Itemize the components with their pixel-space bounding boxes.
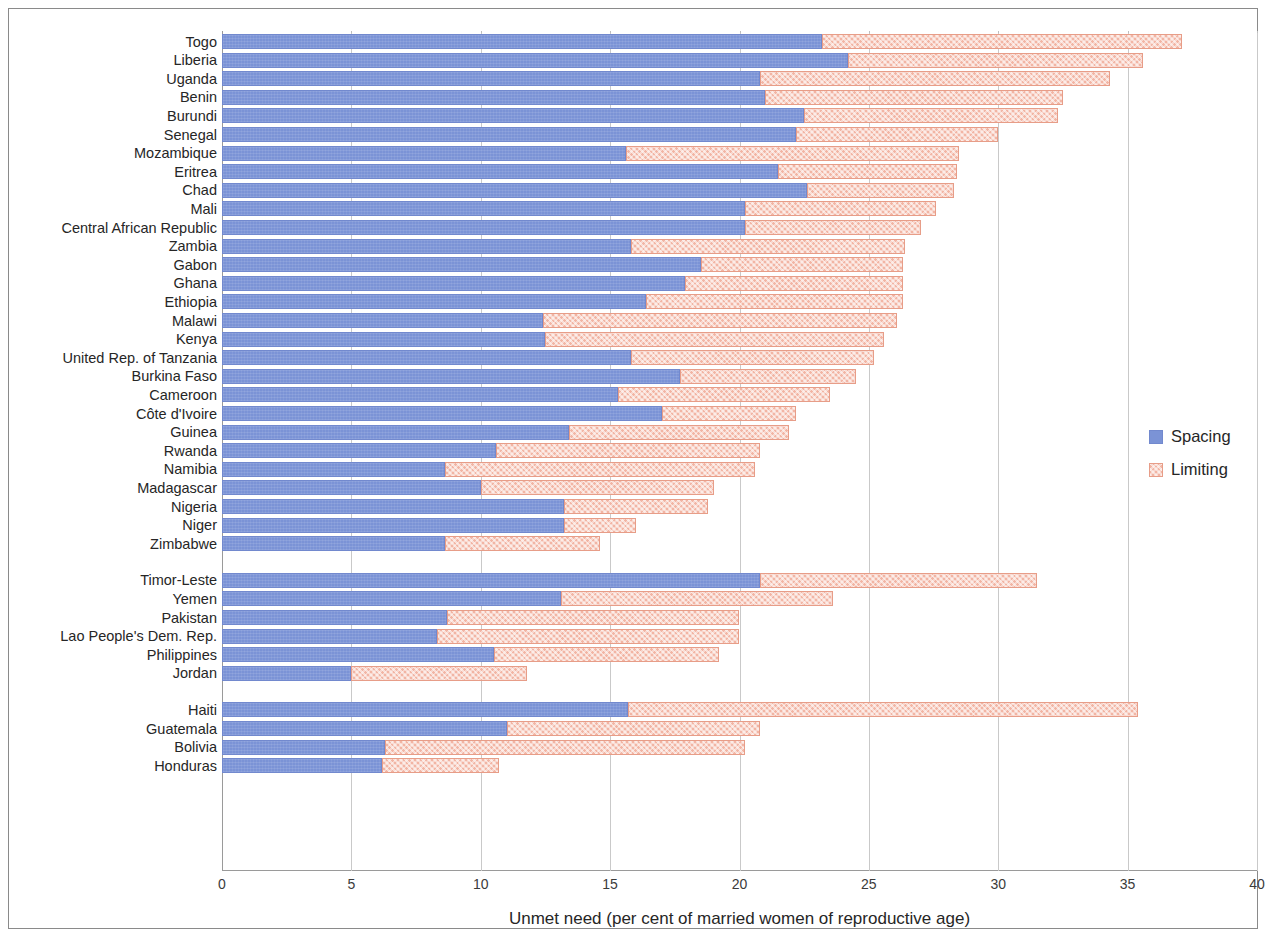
bar-segment-limiting[interactable]: [445, 462, 756, 477]
bar-row: [222, 220, 1257, 235]
category-label: Jordan: [12, 666, 217, 681]
bar-row: [222, 721, 1257, 736]
bar-segment-spacing[interactable]: [222, 257, 701, 272]
category-label: Timor-Leste: [12, 573, 217, 588]
bar-segment-limiting[interactable]: [631, 350, 874, 365]
bar-segment-spacing[interactable]: [222, 220, 745, 235]
legend-item-spacing[interactable]: Spacing: [1149, 427, 1259, 446]
bar-segment-spacing[interactable]: [222, 90, 765, 105]
category-label: Namibia: [12, 462, 217, 477]
bar-segment-spacing[interactable]: [222, 276, 685, 291]
bar-segment-spacing[interactable]: [222, 425, 569, 440]
bar-segment-spacing[interactable]: [222, 462, 445, 477]
x-tick-label: 10: [473, 876, 489, 892]
bar-segment-limiting[interactable]: [848, 53, 1143, 68]
bar-segment-spacing[interactable]: [222, 536, 445, 551]
bar-segment-limiting[interactable]: [662, 406, 797, 421]
bar-segment-limiting[interactable]: [631, 239, 905, 254]
bar-segment-limiting[interactable]: [778, 164, 957, 179]
bar-segment-limiting[interactable]: [496, 443, 760, 458]
bar-segment-spacing[interactable]: [222, 740, 385, 755]
bar-segment-spacing[interactable]: [222, 573, 760, 588]
bar-segment-spacing[interactable]: [222, 702, 628, 717]
bar-segment-spacing[interactable]: [222, 127, 796, 142]
bar-segment-spacing[interactable]: [222, 71, 760, 86]
bar-row: [222, 499, 1257, 514]
category-label: Bolivia: [12, 740, 217, 755]
category-label: Burundi: [12, 109, 217, 124]
bar-segment-spacing[interactable]: [222, 610, 447, 625]
bar-segment-spacing[interactable]: [222, 146, 626, 161]
bar-segment-spacing[interactable]: [222, 666, 351, 681]
bar-segment-limiting[interactable]: [564, 499, 709, 514]
bar-segment-limiting[interactable]: [618, 387, 830, 402]
bar-segment-spacing[interactable]: [222, 499, 564, 514]
bar-segment-limiting[interactable]: [626, 146, 960, 161]
bar-segment-spacing[interactable]: [222, 183, 807, 198]
bar-segment-spacing[interactable]: [222, 108, 804, 123]
bar-segment-limiting[interactable]: [745, 220, 921, 235]
bar-row: [222, 53, 1257, 68]
bar-segment-limiting[interactable]: [447, 610, 739, 625]
bar-segment-limiting[interactable]: [543, 313, 897, 328]
bar-row: [222, 573, 1257, 588]
bar-segment-limiting[interactable]: [564, 518, 636, 533]
bar-segment-spacing[interactable]: [222, 332, 545, 347]
bar-segment-spacing[interactable]: [222, 721, 507, 736]
bar-segment-limiting[interactable]: [445, 536, 600, 551]
category-label: Benin: [12, 90, 217, 105]
x-tick-label: 35: [1120, 876, 1136, 892]
bar-segment-limiting[interactable]: [760, 573, 1037, 588]
bar-segment-limiting[interactable]: [765, 90, 1063, 105]
bar-segment-spacing[interactable]: [222, 443, 496, 458]
bar-segment-limiting[interactable]: [760, 71, 1109, 86]
bar-segment-limiting[interactable]: [385, 740, 745, 755]
bar-segment-spacing[interactable]: [222, 294, 646, 309]
bar-row: [222, 518, 1257, 533]
bar-segment-limiting[interactable]: [545, 332, 884, 347]
bar-segment-limiting[interactable]: [680, 369, 856, 384]
bar-segment-spacing[interactable]: [222, 629, 437, 644]
bar-segment-limiting[interactable]: [561, 591, 833, 606]
bar-segment-spacing[interactable]: [222, 313, 543, 328]
bar-segment-limiting[interactable]: [646, 294, 902, 309]
bar-segment-limiting[interactable]: [569, 425, 789, 440]
bar-segment-spacing[interactable]: [222, 647, 494, 662]
bar-segment-spacing[interactable]: [222, 591, 561, 606]
bar-segment-spacing[interactable]: [222, 53, 848, 68]
bar-segment-limiting[interactable]: [481, 480, 714, 495]
bar-segment-spacing[interactable]: [222, 34, 822, 49]
bar-segment-limiting[interactable]: [685, 276, 902, 291]
bar-segment-limiting[interactable]: [796, 127, 998, 142]
bar-segment-spacing[interactable]: [222, 387, 618, 402]
bar-row: [222, 591, 1257, 606]
bar-segment-limiting[interactable]: [745, 201, 936, 216]
category-label: Guatemala: [12, 722, 217, 737]
category-label: Lao People's Dem. Rep.: [12, 629, 217, 644]
bar-segment-limiting[interactable]: [822, 34, 1182, 49]
bar-segment-limiting[interactable]: [382, 758, 498, 773]
bar-segment-limiting[interactable]: [507, 721, 761, 736]
bar-segment-spacing[interactable]: [222, 406, 662, 421]
bar-segment-limiting[interactable]: [437, 629, 740, 644]
bar-row: [222, 90, 1257, 105]
bar-segment-spacing[interactable]: [222, 164, 778, 179]
bar-segment-spacing[interactable]: [222, 239, 631, 254]
bar-segment-limiting[interactable]: [628, 702, 1138, 717]
bar-segment-limiting[interactable]: [804, 108, 1058, 123]
bar-row: [222, 369, 1257, 384]
bar-segment-limiting[interactable]: [494, 647, 719, 662]
bar-segment-spacing[interactable]: [222, 350, 631, 365]
bar-segment-spacing[interactable]: [222, 369, 680, 384]
bar-segment-spacing[interactable]: [222, 480, 481, 495]
category-label: Zambia: [12, 239, 217, 254]
bar-segment-spacing[interactable]: [222, 201, 745, 216]
bar-segment-spacing[interactable]: [222, 758, 382, 773]
bar-segment-spacing[interactable]: [222, 518, 564, 533]
bar-segment-limiting[interactable]: [351, 666, 527, 681]
bar-segment-limiting[interactable]: [701, 257, 903, 272]
legend-item-limiting[interactable]: Limiting: [1149, 460, 1259, 479]
bar-segment-limiting[interactable]: [807, 183, 954, 198]
x-tick-label: 15: [602, 876, 618, 892]
x-tick-label: 25: [861, 876, 877, 892]
